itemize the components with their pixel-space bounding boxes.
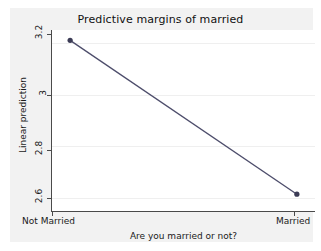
x-tick-label-not-married: Not Married [22, 216, 75, 226]
y-tick-mark-2-6 [47, 198, 51, 199]
y-tick-label-3-2: 3.2 [0, 27, 46, 37]
x-axis-title: Are you married or not? [52, 231, 315, 241]
data-point-marker-married [294, 192, 299, 197]
x-axis-spine [51, 211, 315, 212]
y-tick-label-2-6: 2.6 [0, 191, 46, 201]
y-tick-mark-2-8 [47, 150, 51, 151]
y-axis-title: Linear prediction [18, 60, 28, 170]
series-plot [52, 30, 315, 211]
y-tick-mark-3-2 [47, 34, 51, 35]
y-tick-label-3-0-text: 3 [38, 90, 48, 96]
y-axis-spine [51, 30, 52, 212]
chart-figure: Predictive margins of married 3.2 3 2.8 … [0, 0, 321, 251]
y-tick-label-3-2-text: 3.2 [34, 25, 44, 39]
data-point-marker-not-married [68, 38, 73, 43]
chart-title: Predictive margins of married [0, 13, 321, 26]
y-tick-label-2-8-text: 2.8 [34, 141, 44, 155]
x-tick-label-married: Married [276, 216, 310, 226]
plot-area [52, 30, 315, 211]
y-tick-label-2-6-text: 2.6 [34, 189, 44, 203]
series-line [70, 40, 297, 194]
